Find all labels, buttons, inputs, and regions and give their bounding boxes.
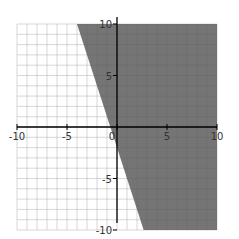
svg-text:-10: -10: [9, 131, 25, 142]
svg-text:10: 10: [211, 131, 224, 142]
svg-text:5: 5: [164, 131, 170, 142]
svg-text:0: 0: [109, 131, 115, 142]
svg-text:-10: -10: [96, 225, 112, 236]
svg-text:-5: -5: [102, 174, 112, 185]
svg-text:-5: -5: [62, 131, 72, 142]
svg-text:10: 10: [99, 19, 112, 30]
inequality-graph: -10-50510105-5-10: [0, 0, 239, 239]
svg-text:5: 5: [106, 71, 112, 82]
